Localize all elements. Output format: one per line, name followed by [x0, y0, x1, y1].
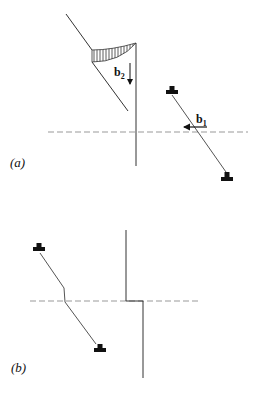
stepped-boundary-b [126, 230, 143, 378]
label-b1: b1 [196, 112, 207, 128]
panel-label-b: (b) [11, 360, 26, 375]
hatched-step [92, 43, 136, 62]
edge-dislocation-icon [94, 344, 106, 352]
dislocation-diagram: b2 b1 (a) [0, 0, 254, 395]
panel-b: (b) [11, 230, 200, 378]
slip-trace-upper [66, 14, 92, 50]
panel-a: b2 b1 (a) [10, 14, 248, 181]
edge-dislocation-icon [221, 172, 233, 181]
panel-label-a: (a) [10, 155, 25, 170]
slip-trace-lower [92, 62, 128, 111]
dislocation-line-a [172, 95, 226, 172]
edge-dislocation-icon [33, 243, 45, 251]
edge-dislocation-icon [166, 86, 178, 94]
label-b2: b2 [114, 65, 125, 81]
dislocation-line-b [40, 253, 96, 344]
